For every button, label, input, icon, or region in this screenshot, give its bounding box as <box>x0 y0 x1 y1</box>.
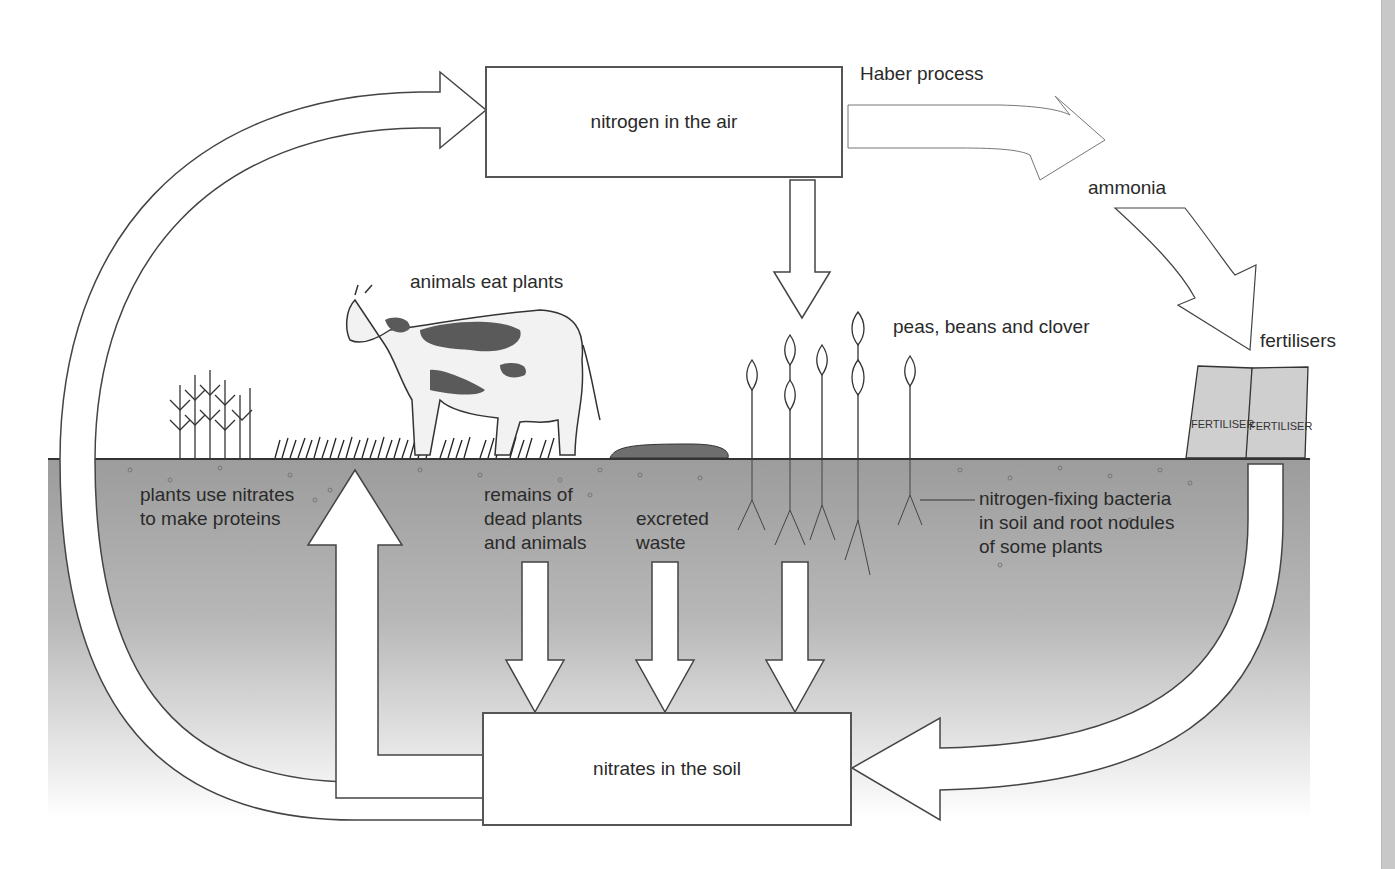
ammonia-label: ammonia <box>1088 176 1166 200</box>
animals-eat-plants-label: animals eat plants <box>410 270 563 294</box>
fertiliser-bag-2-text: FERTILISER <box>1249 414 1312 438</box>
dung-pat <box>610 444 728 458</box>
nitrates-in-soil-box: nitrates in the soil <box>482 712 852 826</box>
bacteria-line-1: nitrogen-fixing bacteria <box>979 487 1174 511</box>
nitrates-in-soil-label: nitrates in the soil <box>593 758 741 780</box>
excreted-line-1: excreted <box>636 507 709 531</box>
plants-use-line-2: to make proteins <box>140 507 294 531</box>
remains-line-1: remains of <box>484 483 586 507</box>
fertilisers-label: fertilisers <box>1260 329 1336 353</box>
remains-label: remains of dead plants and animals <box>484 483 586 555</box>
fertiliser-bag-2 <box>1246 367 1308 458</box>
haber-process-label: Haber process <box>860 62 984 86</box>
nitrogen-in-air-box: nitrogen in the air <box>485 66 843 178</box>
bacteria-line-3: of some plants <box>979 535 1174 559</box>
excreted-waste-label: excreted waste <box>636 507 709 555</box>
remains-line-2: dead plants <box>484 507 586 531</box>
nitrogen-in-air-label: nitrogen in the air <box>591 111 738 133</box>
legume-plants <box>747 312 916 458</box>
excreted-line-2: waste <box>636 531 709 555</box>
fixation-arrow <box>774 180 830 318</box>
ammonia-arrow <box>1115 208 1256 350</box>
page-edge-strip <box>1381 0 1395 869</box>
cow-illustration <box>347 285 600 455</box>
fertiliser-bag-1-text: FERTILISER <box>1191 412 1254 436</box>
wheat-plants <box>170 370 252 458</box>
legumes-label: peas, beans and clover <box>893 315 1089 339</box>
nitrogen-cycle-diagram: nitrogen in the air nitrates in the soil… <box>0 0 1395 869</box>
haber-arrow <box>848 96 1105 180</box>
nitrogen-fixing-bacteria-label: nitrogen-fixing bacteria in soil and roo… <box>979 487 1174 559</box>
plants-use-nitrates-label: plants use nitrates to make proteins <box>140 483 294 531</box>
remains-line-3: and animals <box>484 531 586 555</box>
plants-use-line-1: plants use nitrates <box>140 483 294 507</box>
bacteria-line-2: in soil and root nodules <box>979 511 1174 535</box>
